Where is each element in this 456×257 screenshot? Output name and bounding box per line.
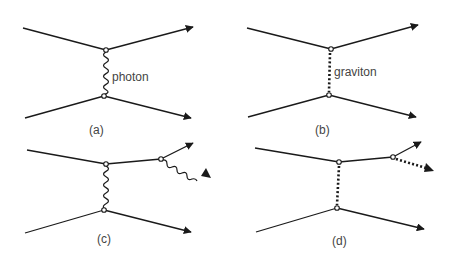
vertex-top xyxy=(104,48,109,53)
vertex-top xyxy=(104,162,109,167)
mediator-label-photon: photon xyxy=(112,70,149,84)
outgoing-fermion-bottom-arrow xyxy=(104,210,191,232)
incoming-fermion-top xyxy=(23,28,106,50)
panel-b: graviton (b) xyxy=(247,25,418,137)
outgoing-fermion-top-arrow xyxy=(393,142,421,157)
caption-b: (b) xyxy=(315,123,330,137)
panel-d: (d) xyxy=(255,142,434,248)
outgoing-fermion-top-arrow xyxy=(331,25,418,49)
vertex-top xyxy=(329,47,334,52)
emitted-photon xyxy=(162,160,197,181)
incoming-fermion-top xyxy=(255,148,339,162)
incoming-fermion-bottom xyxy=(25,96,104,118)
outgoing-fermion-bottom-arrow xyxy=(337,208,424,229)
photon-propagator xyxy=(104,52,109,95)
incoming-fermion-bottom xyxy=(256,208,337,232)
vertex-top xyxy=(337,160,342,165)
vertex-emission xyxy=(159,157,164,162)
outgoing-fermion-bottom-arrow xyxy=(104,96,191,118)
caption-d: (d) xyxy=(332,234,347,248)
emitted-graviton xyxy=(396,159,426,168)
outgoing-fermion-top-arrow xyxy=(106,27,193,50)
incoming-fermion-top xyxy=(27,150,106,164)
outgoing-fermion-top-arrow xyxy=(161,143,193,159)
vertex-bottom xyxy=(102,208,107,213)
graviton-propagator xyxy=(329,53,330,92)
emitted-graviton-arrowhead xyxy=(424,163,434,172)
feynman-diagram-canvas: photon (a) graviton (b) (c) xyxy=(0,0,456,257)
panel-c: (c) xyxy=(25,143,211,246)
internal-fermion-top xyxy=(106,159,161,164)
vertex-bottom xyxy=(335,206,340,211)
internal-fermion-top xyxy=(339,157,393,162)
vertex-bottom xyxy=(327,93,332,98)
vertex-emission xyxy=(391,155,396,160)
mediator-label-graviton: graviton xyxy=(334,65,377,79)
incoming-fermion-top xyxy=(247,28,331,49)
incoming-fermion-bottom xyxy=(25,210,104,233)
caption-a: (a) xyxy=(89,123,104,137)
graviton-propagator xyxy=(337,166,339,205)
emitted-photon-arrowhead xyxy=(201,168,211,178)
photon-propagator xyxy=(103,166,108,208)
vertex-bottom xyxy=(102,94,107,99)
outgoing-fermion-bottom-arrow xyxy=(329,95,416,117)
incoming-fermion-bottom xyxy=(248,95,329,117)
caption-c: (c) xyxy=(97,232,111,246)
panel-a: photon (a) xyxy=(23,27,193,137)
